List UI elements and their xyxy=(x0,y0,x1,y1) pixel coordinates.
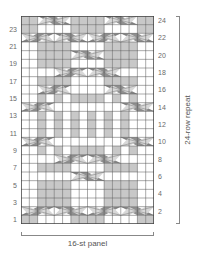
shaded-stitch xyxy=(71,129,79,138)
shaded-stitch xyxy=(88,16,96,25)
shaded-stitch xyxy=(63,189,71,198)
shaded-stitch xyxy=(38,181,46,190)
shaded-stitch xyxy=(38,94,46,103)
shaded-stitch xyxy=(46,163,54,172)
shaded-stitch xyxy=(104,198,112,207)
shaded-stitch xyxy=(104,120,112,129)
shaded-stitch xyxy=(112,181,120,190)
row-number-label: 8 xyxy=(158,156,170,163)
shaded-stitch xyxy=(63,42,71,51)
shaded-stitch xyxy=(54,42,62,51)
row-number-label: 2 xyxy=(158,208,170,215)
shaded-stitch xyxy=(79,94,87,103)
shaded-stitch xyxy=(38,42,46,51)
shaded-stitch xyxy=(88,94,96,103)
shaded-stitch xyxy=(104,181,112,190)
shaded-stitch xyxy=(54,59,62,68)
row-number-label: 6 xyxy=(158,173,170,180)
row-number-label: 3 xyxy=(4,199,17,206)
row-number-label: 12 xyxy=(158,121,170,128)
row-number-label: 15 xyxy=(4,95,17,102)
shaded-stitch xyxy=(88,120,96,129)
shaded-stitch xyxy=(54,77,62,86)
shaded-stitch xyxy=(71,111,79,120)
shaded-stitch xyxy=(46,42,54,51)
shaded-stitch xyxy=(112,163,120,172)
shaded-stitch xyxy=(46,77,54,86)
shaded-stitch xyxy=(46,181,54,190)
shaded-stitch xyxy=(112,146,120,155)
shaded-stitch xyxy=(38,51,46,60)
shaded-stitch xyxy=(29,16,37,25)
row-number-label: 13 xyxy=(4,112,17,119)
shaded-stitch xyxy=(38,59,46,68)
row-number-label: 21 xyxy=(4,43,17,50)
shaded-stitch xyxy=(21,25,29,34)
shaded-stitch xyxy=(121,59,129,68)
shaded-stitch xyxy=(129,189,137,198)
shaded-stitch xyxy=(112,94,120,103)
shaded-stitch xyxy=(54,129,62,138)
shaded-stitch xyxy=(71,16,79,25)
shaded-stitch xyxy=(121,51,129,60)
row-number-label: 9 xyxy=(4,147,17,154)
shaded-stitch xyxy=(79,25,87,34)
shaded-stitch xyxy=(38,129,46,138)
shaded-stitch xyxy=(46,189,54,198)
shaded-stitch xyxy=(88,129,96,138)
row-number-label: 18 xyxy=(158,69,170,76)
shaded-stitch xyxy=(63,163,71,172)
shaded-stitch xyxy=(38,111,46,120)
shaded-stitch xyxy=(129,77,137,86)
shaded-stitch xyxy=(129,51,137,60)
shaded-stitch xyxy=(104,51,112,60)
shaded-stitch xyxy=(121,198,129,207)
shaded-stitch xyxy=(112,59,120,68)
panel-width-label: 16-st panel xyxy=(21,239,154,248)
shaded-stitch xyxy=(121,129,129,138)
shaded-stitch xyxy=(96,16,104,25)
shaded-stitch xyxy=(38,120,46,129)
shaded-stitch xyxy=(121,42,129,51)
shaded-stitch xyxy=(46,59,54,68)
row-number-label: 24 xyxy=(158,17,170,24)
shaded-stitch xyxy=(54,146,62,155)
panel-bracket xyxy=(21,232,154,236)
row-number-label: 23 xyxy=(4,26,17,33)
shaded-stitch xyxy=(129,42,137,51)
shaded-stitch xyxy=(71,25,79,34)
shaded-stitch xyxy=(54,120,62,129)
shaded-stitch xyxy=(112,198,120,207)
shaded-stitch xyxy=(121,189,129,198)
shaded-stitch xyxy=(71,146,79,155)
shaded-stitch xyxy=(88,25,96,34)
shaded-stitch xyxy=(54,111,62,120)
shaded-stitch xyxy=(137,25,145,34)
row-number-label: 10 xyxy=(158,138,170,145)
shaded-stitch xyxy=(46,198,54,207)
shaded-stitch xyxy=(112,77,120,86)
shaded-stitch xyxy=(129,59,137,68)
row-number-label: 20 xyxy=(158,52,170,59)
shaded-stitch xyxy=(104,77,112,86)
row-number-label: 16 xyxy=(158,86,170,93)
shaded-stitch xyxy=(121,120,129,129)
row-number-label: 1 xyxy=(4,216,17,223)
shaded-stitch xyxy=(38,163,46,172)
row-number-label: 14 xyxy=(158,104,170,111)
shaded-stitch xyxy=(38,77,46,86)
shaded-stitch xyxy=(63,59,71,68)
shaded-stitch xyxy=(104,163,112,172)
shaded-stitch xyxy=(104,111,112,120)
shaded-stitch xyxy=(54,163,62,172)
shaded-stitch xyxy=(121,77,129,86)
shaded-stitch xyxy=(79,16,87,25)
shaded-stitch xyxy=(104,189,112,198)
shaded-stitch xyxy=(129,163,137,172)
shaded-stitch xyxy=(79,215,87,224)
shaded-stitch xyxy=(121,163,129,172)
knitting-chart-grid xyxy=(21,16,154,224)
shaded-stitch xyxy=(54,189,62,198)
shaded-stitch xyxy=(104,59,112,68)
shaded-stitch xyxy=(38,146,46,155)
